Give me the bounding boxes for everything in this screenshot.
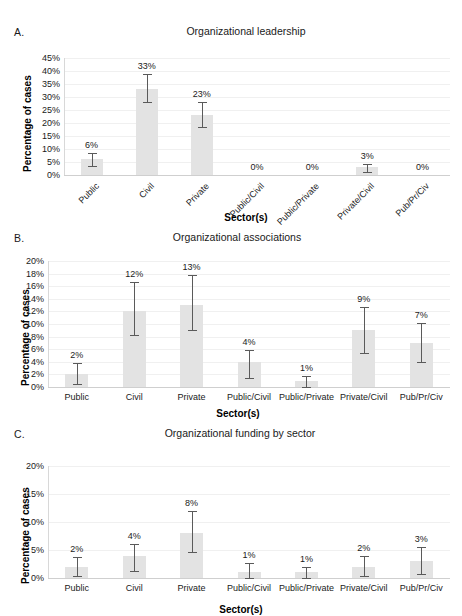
- gridline: [48, 274, 450, 275]
- error-bar-line: [306, 376, 307, 387]
- panel-a-plot-area: 0%5%10%15%20%25%30%35%40%45%6%Public33%C…: [64, 58, 450, 175]
- error-bar-cap-lower: [302, 387, 311, 388]
- gridline: [48, 286, 450, 287]
- error-bar-cap-upper: [245, 563, 254, 564]
- y-axis-tick-label: 14%: [26, 294, 48, 304]
- y-axis-tick-label: 25%: [42, 105, 64, 115]
- error-bar-cap-lower: [360, 353, 369, 354]
- y-axis-tick-label: 20%: [26, 256, 48, 266]
- error-bar-cap-lower: [363, 172, 372, 173]
- x-axis-tick-label: Pub/Pr/Civ: [400, 583, 443, 593]
- bar-value-label: 2%: [70, 544, 83, 554]
- bar-value-label: 0%: [250, 162, 263, 172]
- panel-b-plot-area: 0%2%4%6%8%10%12%14%16%18%20%2%Public12%C…: [48, 261, 450, 387]
- x-axis-tick-label: Private: [178, 392, 206, 402]
- bar-value-label: 12%: [125, 269, 143, 279]
- error-bar-line: [249, 350, 250, 378]
- error-bar-line: [367, 164, 368, 171]
- error-bar-cap-lower: [88, 166, 97, 167]
- panel-c-y-axis-title: Percentage of cases: [20, 487, 31, 584]
- gridline: [64, 110, 450, 111]
- gridline: [48, 494, 450, 495]
- bar-value-label: 33%: [138, 61, 156, 71]
- error-bar-cap-lower: [198, 127, 207, 128]
- gridline: [48, 311, 450, 312]
- error-bar-cap-lower: [245, 578, 254, 579]
- x-axis-line: [48, 387, 450, 388]
- y-axis-tick-label: 35%: [42, 79, 64, 89]
- error-bar-line: [364, 556, 365, 576]
- gridline: [64, 149, 450, 150]
- panel-c-title: Organizational funding by sector: [0, 427, 462, 439]
- y-axis-tick-label: 30%: [42, 92, 64, 102]
- error-bar-line: [192, 275, 193, 330]
- y-axis-tick-label: 16%: [26, 281, 48, 291]
- error-bar-cap-upper: [302, 376, 311, 377]
- error-bar-cap-upper: [198, 102, 207, 103]
- error-bar-cap-upper: [360, 307, 369, 308]
- error-bar-line: [134, 282, 135, 335]
- error-bar-cap-upper: [360, 556, 369, 557]
- error-bar-line: [92, 153, 93, 166]
- error-bar-line: [147, 74, 148, 102]
- x-axis-tick-label: Public/Private: [279, 583, 334, 593]
- y-axis-tick-label: 40%: [42, 66, 64, 76]
- gridline: [48, 522, 450, 523]
- bar-value-label: 7%: [415, 310, 428, 320]
- error-bar-line: [421, 323, 422, 363]
- error-bar-cap-upper: [73, 557, 82, 558]
- bar-value-label: 2%: [357, 543, 370, 553]
- error-bar-line: [249, 563, 250, 578]
- error-bar-cap-lower: [417, 574, 426, 575]
- y-axis-tick-label: 10%: [26, 517, 48, 527]
- y-axis-tick-label: 12%: [26, 306, 48, 316]
- error-bar-cap-lower: [130, 335, 139, 336]
- gridline: [48, 261, 450, 262]
- y-axis-tick-label: 20%: [42, 118, 64, 128]
- error-bar-cap-lower: [302, 578, 311, 579]
- panel-a-x-axis-title: Sector(s): [0, 212, 462, 223]
- gridline: [48, 466, 450, 467]
- y-axis-tick-label: 15%: [42, 131, 64, 141]
- panel-c-x-axis-title: Sector(s): [0, 604, 462, 615]
- y-axis-tick-label: 0%: [31, 573, 48, 583]
- error-bar-cap-lower: [245, 378, 254, 379]
- error-bar-cap-lower: [188, 330, 197, 331]
- x-axis-line: [64, 175, 450, 176]
- panel-b: B. Organizational associations Percentag…: [0, 228, 462, 420]
- bar-value-label: 4%: [128, 531, 141, 541]
- y-axis-tick-label: 5%: [31, 545, 48, 555]
- x-axis-tick-label: Pub/Pr/Civ: [400, 392, 443, 402]
- y-axis-tick-label: 10%: [42, 144, 64, 154]
- x-axis-tick-label: Public: [64, 392, 89, 402]
- x-axis-tick-label: Private: [178, 583, 206, 593]
- gridline: [48, 299, 450, 300]
- x-axis-tick-label: Public: [64, 583, 89, 593]
- y-axis-tick-label: 0%: [31, 382, 48, 392]
- x-axis-tick-label: Civil: [126, 392, 143, 402]
- x-axis-tick-label: Private/Civil: [340, 583, 388, 593]
- bar-value-label: 1%: [300, 363, 313, 373]
- bar-value-label: 1%: [242, 550, 255, 560]
- x-axis-tick-label: Civil: [126, 583, 143, 593]
- y-axis-line: [64, 58, 65, 175]
- error-bar-cap-upper: [73, 363, 82, 364]
- error-bar-cap-lower: [360, 576, 369, 577]
- error-bar-line: [202, 102, 203, 127]
- error-bar-cap-lower: [188, 552, 197, 553]
- y-axis-tick-label: 4%: [31, 357, 48, 367]
- bar-value-label: 9%: [357, 294, 370, 304]
- figure-root: A. Organizational leadership Percentage …: [0, 0, 462, 616]
- x-axis-tick-label: Private/Civil: [340, 392, 388, 402]
- panel-a-y-axis-title: Percentage of cases: [22, 75, 33, 172]
- bar-value-label: 6%: [85, 140, 98, 150]
- bar-value-label: 4%: [242, 337, 255, 347]
- panel-c: C. Organizational funding by sector Perc…: [0, 424, 462, 616]
- x-axis-tick-label: Public/Civil: [227, 583, 271, 593]
- error-bar-cap-upper: [188, 511, 197, 512]
- error-bar-cap-upper: [130, 282, 139, 283]
- error-bar-cap-upper: [88, 153, 97, 154]
- y-axis-tick-label: 5%: [47, 157, 64, 167]
- panel-b-x-axis-title: Sector(s): [0, 408, 462, 419]
- error-bar-line: [77, 363, 78, 384]
